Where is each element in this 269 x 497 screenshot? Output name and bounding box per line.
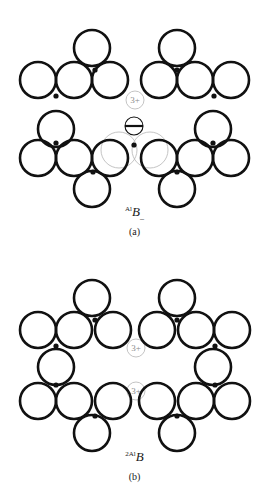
- interstitial-dot: [211, 93, 216, 98]
- lattice-ion: [74, 171, 110, 207]
- interstitial-dot: [174, 169, 179, 174]
- lattice-ion: [56, 383, 92, 419]
- interstitial-dot: [174, 413, 179, 418]
- lattice-ion: [74, 415, 110, 451]
- lattice-ion: [20, 383, 56, 419]
- lattice-ion: [213, 140, 249, 176]
- lattice-ion: [20, 140, 56, 176]
- formula-pre-superscript-a: Al: [125, 205, 132, 213]
- interstitial-dot: [92, 317, 97, 322]
- lattice-diagram-b: 3+3+: [0, 250, 269, 455]
- lattice-ion: [95, 383, 131, 419]
- figure-panel-b: 3+3+ 2AlB (b): [0, 250, 269, 497]
- panel-label-a: (a): [0, 226, 269, 237]
- lattice-ion: [141, 62, 177, 98]
- lattice-ion: [139, 312, 175, 348]
- lattice-ion: [92, 62, 128, 98]
- caption-b: 2AlB (b): [0, 450, 269, 482]
- interstitial-dot: [212, 382, 217, 387]
- lattice-ion: [95, 312, 131, 348]
- formula-element-a: B: [132, 204, 140, 219]
- lattice-ion: [38, 349, 74, 385]
- lattice-ion: [214, 383, 250, 419]
- interstitial-dot: [53, 343, 58, 348]
- interstitial-dot: [92, 413, 97, 418]
- lattice-ion: [178, 383, 214, 419]
- lattice-ion: [214, 312, 250, 348]
- lattice-ion: [20, 62, 56, 98]
- formula-pre-superscript-b: 2Al: [125, 450, 136, 458]
- interstitial-dot: [131, 142, 136, 147]
- lattice-ion: [56, 312, 92, 348]
- interstitial-dot: [174, 317, 179, 322]
- lattice-ion: [178, 312, 214, 348]
- interstitial-dot: [53, 382, 58, 387]
- interstitial-dot: [92, 67, 97, 72]
- charge-label: 3+: [131, 343, 141, 353]
- formula-element-b: B: [136, 449, 144, 464]
- interstitial-dot: [174, 67, 179, 72]
- panel-label-b: (b): [0, 471, 269, 482]
- lattice-ion: [195, 349, 231, 385]
- caption-a: AlB_ (a): [0, 205, 269, 237]
- lattice-ion: [159, 415, 195, 451]
- charge-label: 3+: [130, 95, 140, 105]
- lattice-ion: [74, 280, 110, 316]
- interstitial-dot: [53, 140, 58, 145]
- lattice-ion: [20, 312, 56, 348]
- lattice-ion: [159, 171, 195, 207]
- lattice-ion: [74, 30, 110, 66]
- interstitial-dot: [212, 343, 217, 348]
- interstitial-dot: [210, 140, 215, 145]
- interstitial-dot: [53, 93, 58, 98]
- figure-panel-a: 3+ AlB_ (a): [0, 0, 269, 250]
- interstitial-dot: [90, 169, 95, 174]
- lattice-diagram-a: 3+: [0, 0, 269, 210]
- lattice-ion: [177, 62, 213, 98]
- defect-formula-b: 2AlB: [0, 450, 269, 467]
- lattice-ion: [159, 30, 195, 66]
- defect-formula-a: AlB_: [0, 205, 269, 222]
- lattice-ion: [213, 62, 249, 98]
- lattice-ion: [159, 280, 195, 316]
- lattice-ion: [139, 383, 175, 419]
- lattice-ion: [56, 62, 92, 98]
- formula-post-subscript-a: _: [140, 212, 144, 221]
